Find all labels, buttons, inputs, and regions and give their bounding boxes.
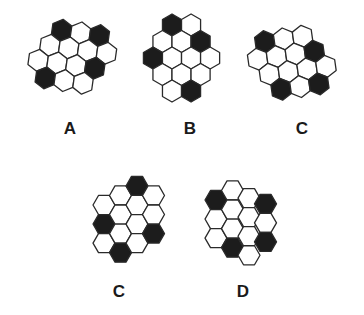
hexagon-filled [255,194,277,213]
figure-a-hex-pattern [25,15,120,98]
figure-c-bottom-hex-pattern [93,176,165,262]
hexagon-empty [255,213,277,232]
hexagon-filled [255,232,277,251]
hexagon-empty [238,246,260,265]
hexagon-filled [182,80,201,102]
label-b: B [184,119,196,139]
label-d: D [237,282,249,302]
figure-c-top-hex-pattern [244,21,339,104]
hexagon-empty [162,80,181,102]
hexagon-filled [143,224,165,243]
label-a: A [64,119,76,139]
hexagon-empty [143,186,165,205]
hexagon-empty [143,205,165,224]
hexagon-figures-canvas [0,0,364,315]
figure-b-hex-pattern [143,14,219,102]
label-c-top: C [296,119,308,139]
label-c-bottom: C [113,282,125,302]
figure-d-hex-pattern [205,181,277,265]
